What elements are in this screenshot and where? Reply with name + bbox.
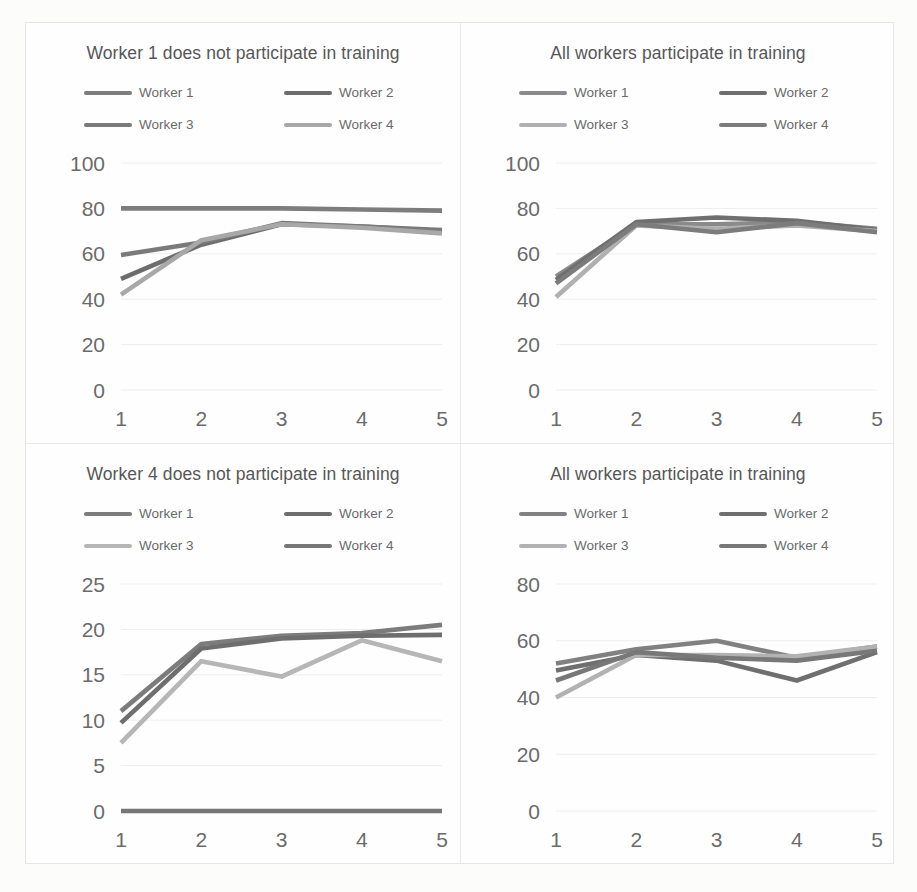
legend-swatch-icon-worker-4: [284, 544, 332, 548]
legend-label-worker-4: Worker 4: [339, 117, 394, 132]
legend-item-worker-2[interactable]: Worker 2: [284, 506, 394, 521]
legend-label-worker-3: Worker 3: [139, 538, 194, 553]
y-axis-tick-label: 100: [505, 153, 540, 175]
chart-legend-bottom-right: Worker 1 Worker 2 Worker 3 Worker 4: [519, 506, 869, 568]
series-line-worker-2: [121, 224, 442, 278]
y-axis-tick-label: 20: [517, 743, 540, 766]
legend-swatch-icon-worker-1: [519, 91, 567, 95]
legend-label-worker-2: Worker 2: [774, 506, 829, 521]
legend-item-worker-1[interactable]: Worker 1: [84, 85, 194, 100]
x-axis-tick-label: 5: [871, 407, 883, 430]
legend-item-worker-2[interactable]: Worker 2: [719, 506, 829, 521]
x-axis-tick-label: 3: [711, 828, 723, 851]
y-axis-tick-label: 60: [82, 242, 105, 265]
x-axis-tick-label: 2: [630, 407, 642, 430]
legend-label-worker-3: Worker 3: [139, 117, 194, 132]
plot-svg-top-left: 02040608010012345: [26, 153, 460, 444]
y-axis-tick-label: 60: [517, 629, 540, 652]
legend-item-worker-3[interactable]: Worker 3: [519, 117, 629, 132]
legend-item-worker-2[interactable]: Worker 2: [284, 85, 394, 100]
chart-panel-top-right: All workers participate in training Work…: [461, 23, 895, 444]
legend-swatch-icon-worker-3: [84, 544, 132, 548]
y-axis-tick-label: 60: [517, 242, 540, 265]
chart-legend-top-right: Worker 1 Worker 2 Worker 3 Worker 4: [519, 85, 869, 147]
legend-swatch-icon-worker-4: [719, 544, 767, 548]
legend-swatch-icon-worker-2: [719, 512, 767, 516]
y-axis-tick-label: 0: [528, 379, 540, 402]
legend-swatch-icon-worker-2: [284, 512, 332, 516]
legend-item-worker-1[interactable]: Worker 1: [519, 85, 629, 100]
x-axis-tick-label: 2: [630, 828, 642, 851]
y-axis-tick-label: 40: [517, 288, 540, 311]
y-axis-tick-label: 10: [82, 709, 105, 732]
legend-swatch-icon-worker-2: [284, 91, 332, 95]
legend-item-worker-1[interactable]: Worker 1: [84, 506, 194, 521]
y-axis-tick-label: 0: [93, 379, 105, 402]
y-axis-tick-label: 20: [517, 333, 540, 356]
y-axis-tick-label: 80: [517, 574, 540, 596]
legend-label-worker-3: Worker 3: [574, 538, 629, 553]
legend-label-worker-4: Worker 4: [339, 538, 394, 553]
legend-item-worker-3[interactable]: Worker 3: [519, 538, 629, 553]
x-axis-tick-label: 5: [436, 407, 448, 430]
y-axis-tick-label: 100: [70, 153, 105, 175]
y-axis-tick-label: 80: [82, 197, 105, 220]
x-axis-tick-label: 3: [711, 407, 723, 430]
legend-item-worker-2[interactable]: Worker 2: [719, 85, 829, 100]
legend-item-worker-4[interactable]: Worker 4: [719, 117, 829, 132]
chart-title-top-right: All workers participate in training: [461, 43, 895, 64]
x-axis-tick-label: 4: [791, 828, 803, 851]
y-axis-tick-label: 0: [528, 800, 540, 823]
x-axis-tick-label: 3: [276, 407, 288, 430]
legend-label-worker-1: Worker 1: [574, 85, 629, 100]
legend-item-worker-3[interactable]: Worker 3: [84, 538, 194, 553]
x-axis-tick-label: 1: [550, 407, 562, 430]
y-axis-tick-label: 5: [93, 754, 105, 777]
plot-svg-bottom-right: 02040608012345: [461, 574, 895, 865]
plot-area-bottom-left: 051015202512345: [26, 574, 460, 865]
legend-swatch-icon-worker-2: [719, 91, 767, 95]
legend-swatch-icon-worker-3: [84, 123, 132, 127]
legend-label-worker-1: Worker 1: [139, 506, 194, 521]
legend-item-worker-1[interactable]: Worker 1: [519, 506, 629, 521]
series-line-worker-3: [556, 225, 877, 297]
legend-swatch-icon-worker-3: [519, 544, 567, 548]
legend-label-worker-1: Worker 1: [574, 506, 629, 521]
chart-title-bottom-right: All workers participate in training: [461, 464, 895, 485]
legend-item-worker-3[interactable]: Worker 3: [84, 117, 194, 132]
plot-area-bottom-right: 02040608012345: [461, 574, 895, 865]
plot-area-top-left: 02040608010012345: [26, 153, 460, 444]
chart-legend-top-left: Worker 1 Worker 2 Worker 3 Worker 4: [84, 85, 434, 147]
x-axis-tick-label: 4: [356, 828, 368, 851]
series-line-worker-3: [121, 640, 442, 743]
legend-swatch-icon-worker-1: [84, 91, 132, 95]
chart-legend-bottom-left: Worker 1 Worker 2 Worker 3 Worker 4: [84, 506, 434, 568]
legend-label-worker-3: Worker 3: [574, 117, 629, 132]
legend-swatch-icon-worker-1: [84, 512, 132, 516]
plot-area-top-right: 02040608010012345: [461, 153, 895, 444]
y-axis-tick-label: 0: [93, 800, 105, 823]
chart-panel-bottom-left: Worker 4 does not participate in trainin…: [26, 444, 460, 865]
series-line-worker-1: [121, 208, 442, 210]
y-axis-tick-label: 20: [82, 333, 105, 356]
legend-label-worker-4: Worker 4: [774, 538, 829, 553]
x-axis-tick-label: 2: [195, 407, 207, 430]
y-axis-tick-label: 40: [82, 288, 105, 311]
y-axis-tick-label: 25: [82, 574, 105, 596]
x-axis-tick-label: 1: [115, 407, 127, 430]
legend-swatch-icon-worker-3: [519, 123, 567, 127]
x-axis-tick-label: 5: [436, 828, 448, 851]
legend-label-worker-4: Worker 4: [774, 117, 829, 132]
chart-panel-bottom-right: All workers participate in training Work…: [461, 444, 895, 865]
chart-title-top-left: Worker 1 does not participate in trainin…: [26, 43, 460, 64]
legend-item-worker-4[interactable]: Worker 4: [719, 538, 829, 553]
legend-item-worker-4[interactable]: Worker 4: [284, 538, 394, 553]
chart-title-bottom-left: Worker 4 does not participate in trainin…: [26, 464, 460, 485]
legend-label-worker-2: Worker 2: [339, 85, 394, 100]
x-axis-tick-label: 5: [871, 828, 883, 851]
legend-item-worker-4[interactable]: Worker 4: [284, 117, 394, 132]
y-axis-tick-label: 20: [82, 618, 105, 641]
legend-swatch-icon-worker-1: [519, 512, 567, 516]
series-line-worker-4: [121, 224, 442, 294]
legend-label-worker-1: Worker 1: [139, 85, 194, 100]
